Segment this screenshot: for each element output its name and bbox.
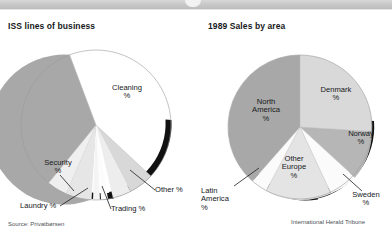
label-denmark-pct: % <box>312 94 360 102</box>
label-trading: Trading % <box>111 205 145 213</box>
label-other-text: Other % <box>155 185 183 194</box>
label-trading-text: Trading % <box>111 204 145 213</box>
page-title-right: 1989 Sales by area <box>208 21 285 31</box>
label-north-america: North America % <box>240 98 292 123</box>
label-denmark: Denmark % <box>312 86 360 103</box>
label-sweden-pct: % <box>344 199 388 207</box>
label-other: Other % <box>155 186 183 194</box>
label-laundry-text: Laundry % <box>20 201 56 210</box>
label-other-europe-pct: % <box>271 172 317 180</box>
label-laundry: Laundry % <box>20 202 56 210</box>
window-notch-icon <box>185 0 201 7</box>
label-sweden: Sweden % <box>344 191 388 208</box>
source-note: Source: Privatbørsen <box>8 221 64 227</box>
publisher-credit: International Herald Tribune <box>291 219 365 225</box>
infographic-root: ISS lines of business Cleaning % Securit… <box>0 0 392 239</box>
label-north-america-pct: % <box>240 115 292 123</box>
label-cleaning-pct: % <box>104 92 150 100</box>
label-other-europe: Other Europe % <box>271 155 317 180</box>
label-norway: Norway % <box>339 130 383 147</box>
label-norway-pct: % <box>339 138 383 146</box>
label-cleaning: Cleaning % <box>104 84 150 101</box>
label-security-pct: % <box>36 167 80 175</box>
label-latin-america: Latin America % <box>201 187 229 212</box>
label-security: Security % <box>36 159 80 176</box>
label-latin-america-pct: % <box>201 204 229 212</box>
page-title-left: ISS lines of business <box>8 21 95 31</box>
